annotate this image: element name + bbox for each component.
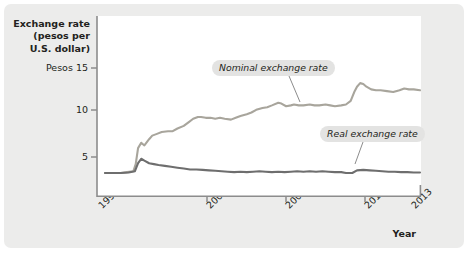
nominal-series-annotation: Nominal exchange rate	[212, 60, 335, 76]
y-axis-ticks	[91, 68, 97, 157]
real-series-annotation: Real exchange rate	[320, 126, 425, 142]
real-exchange-rate-line	[105, 159, 420, 173]
exchange-rate-figure: Exchange rate (pesos per U.S. dollar) Pe…	[0, 0, 468, 258]
annotation-leader-lines	[289, 76, 363, 164]
